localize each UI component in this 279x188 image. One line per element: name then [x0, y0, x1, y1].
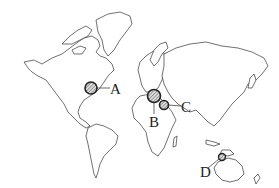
madagascar [173, 136, 177, 147]
label-b: B [149, 115, 159, 130]
marker-a [85, 82, 97, 94]
new-zealand [254, 174, 260, 184]
label-a: A [110, 82, 121, 97]
world-map [0, 0, 279, 188]
marker-b [148, 90, 161, 103]
australia [214, 158, 244, 182]
greenland [96, 12, 132, 56]
marker-c [160, 101, 169, 110]
north-america [24, 36, 114, 128]
label-c: C [181, 100, 191, 115]
south-america [86, 124, 118, 178]
label-d: D [200, 165, 211, 180]
leader-line-c [168, 105, 181, 106]
marker-d [219, 154, 226, 161]
